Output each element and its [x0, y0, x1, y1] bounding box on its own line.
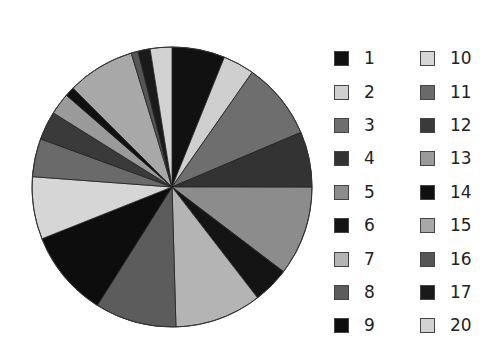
legend-swatch: [334, 151, 349, 166]
legend-label: 14: [450, 184, 472, 201]
legend-item-9: 9: [334, 309, 375, 342]
legend-swatch: [334, 318, 349, 333]
legend-item-8: 8: [334, 276, 375, 309]
legend-item-4: 4: [334, 142, 375, 175]
legend-item-10: 10: [420, 42, 472, 75]
legend-item-7: 7: [334, 242, 375, 275]
legend-item-13: 13: [420, 142, 472, 175]
legend-column-1: 1 2 3 4 5 6 7 8 9: [334, 42, 375, 343]
legend-swatch: [334, 185, 349, 200]
legend-swatch: [420, 85, 435, 100]
legend-label: 5: [364, 184, 375, 201]
legend-label: 2: [364, 84, 375, 101]
legend-swatch: [420, 51, 435, 66]
legend-item-5: 5: [334, 176, 375, 209]
legend-label: 15: [450, 217, 472, 234]
legend-swatch: [420, 151, 435, 166]
legend-swatch: [334, 51, 349, 66]
legend-label: 13: [450, 150, 472, 167]
legend-label: 4: [364, 150, 375, 167]
legend-item-11: 11: [420, 75, 472, 108]
legend-item-12: 12: [420, 109, 472, 142]
legend-label: 20: [450, 317, 472, 334]
legend-swatch: [334, 85, 349, 100]
legend-label: 10: [450, 50, 472, 67]
legend-swatch: [334, 118, 349, 133]
legend-item-14: 14: [420, 176, 472, 209]
legend-column-2: 10 11 12 13 14 15 16 17 20: [420, 42, 472, 343]
legend-item-20: 20: [420, 309, 472, 342]
legend-swatch: [420, 252, 435, 267]
pie-chart: [0, 0, 340, 356]
legend-label: 17: [450, 284, 472, 301]
legend-swatch: [334, 252, 349, 267]
legend-item-17: 17: [420, 276, 472, 309]
legend-label: 1: [364, 50, 375, 67]
legend-swatch: [420, 185, 435, 200]
legend-swatch: [334, 218, 349, 233]
legend-swatch: [420, 118, 435, 133]
legend-item-2: 2: [334, 75, 375, 108]
legend-item-3: 3: [334, 109, 375, 142]
legend-label: 9: [364, 317, 375, 334]
legend-label: 8: [364, 284, 375, 301]
legend-label: 12: [450, 117, 472, 134]
legend-item-15: 15: [420, 209, 472, 242]
legend-swatch: [420, 285, 435, 300]
legend-label: 11: [450, 84, 472, 101]
legend-item-16: 16: [420, 242, 472, 275]
legend-swatch: [420, 218, 435, 233]
legend-label: 7: [364, 251, 375, 268]
legend-label: 6: [364, 217, 375, 234]
legend-swatch: [334, 285, 349, 300]
legend-label: 16: [450, 251, 472, 268]
legend-swatch: [420, 318, 435, 333]
legend-item-6: 6: [334, 209, 375, 242]
legend-item-1: 1: [334, 42, 375, 75]
legend-label: 3: [364, 117, 375, 134]
